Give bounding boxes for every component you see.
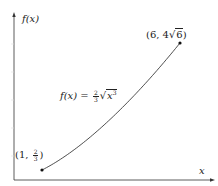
end-point-label-prefix: (6, 4 bbox=[146, 29, 169, 40]
x-axis bbox=[14, 178, 215, 181]
start-point-label-fraction: 23 bbox=[33, 149, 39, 162]
end-point-marker bbox=[178, 41, 181, 44]
function-label-exponent: 3 bbox=[113, 89, 117, 96]
start-point-label: (1, 23) bbox=[15, 149, 43, 162]
y-axis-arrow-icon bbox=[12, 12, 15, 17]
start-point-label-suffix: ) bbox=[39, 149, 43, 160]
x-axis-arrow-icon bbox=[210, 178, 215, 181]
function-curve bbox=[42, 43, 180, 170]
y-axis-ticks bbox=[11, 44, 14, 156]
y-axis-label: f(x) bbox=[22, 14, 39, 24]
function-label-fraction: 23 bbox=[93, 90, 99, 103]
x-axis-label: x bbox=[199, 166, 205, 176]
start-point-label-prefix: (1, bbox=[15, 149, 32, 160]
start-point-label-denominator: 3 bbox=[33, 156, 39, 162]
function-label: f(x) = 23√x3 bbox=[60, 90, 117, 103]
end-point-label-suffix: ) bbox=[183, 29, 187, 40]
start-point-marker bbox=[40, 168, 43, 171]
function-label-radicand: x3 bbox=[106, 89, 116, 101]
end-point-label-radicand: 6 bbox=[175, 28, 182, 40]
function-label-denominator: 3 bbox=[93, 97, 99, 103]
end-point-label: (6, 4√6) bbox=[146, 30, 187, 40]
function-label-lhs: f(x) = bbox=[60, 90, 92, 101]
